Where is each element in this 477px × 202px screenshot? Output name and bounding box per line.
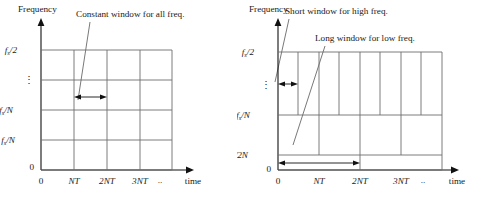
- svg-text:fs/N: fs/N: [1, 135, 16, 146]
- y-tick-fs-over-N: fs/N: [1, 135, 16, 146]
- y-tick-fs-over-2N: fs/2N: [237, 150, 249, 161]
- time-frequency-tiling-figure: Constant window for all freq. Frequency: [0, 0, 477, 202]
- middle-band-vlines: [319, 115, 401, 155]
- y-tick-zero: 0: [29, 162, 34, 172]
- annotation-long-window: Long window for low freq.: [315, 33, 415, 43]
- x-tick-2NT: 2NT: [352, 176, 369, 186]
- y-axis-label-frequency: Frequency: [249, 4, 288, 14]
- annotation-constant-window: Constant window for all freq.: [76, 9, 184, 19]
- x-tick-2NT: 2NT: [99, 176, 116, 186]
- short-window-leader-line: [275, 19, 289, 82]
- annotation-leader-line: [78, 22, 90, 100]
- svg-text:fs/2N: fs/2N: [237, 150, 249, 161]
- y-axis-label-frequency: Frequency: [18, 4, 57, 14]
- y-axis-arrowhead: [38, 18, 45, 26]
- x-tick-NT: NT: [312, 176, 325, 186]
- x-axis-arrowhead: [186, 167, 194, 174]
- top-band-vlines: [298, 52, 421, 115]
- y-tick-fs-over-2: fs/2: [242, 47, 255, 58]
- x-tick-ellipsis: ..: [158, 175, 163, 185]
- x-axis-label-time: time: [449, 176, 465, 186]
- svg-text:2fs/N: 2fs/N: [237, 110, 251, 121]
- x-tick-0: 0: [39, 176, 44, 186]
- x-tick-3NT: 3NT: [392, 176, 410, 186]
- long-window-width-arrow: [278, 160, 360, 165]
- annotation-short-window: Short window for high freq.: [285, 6, 388, 16]
- x-tick-ellipsis: ..: [421, 175, 426, 185]
- x-tick-NT: NT: [67, 176, 80, 186]
- x-tick-0: 0: [276, 176, 281, 186]
- y-tick-zero: 0: [266, 164, 271, 174]
- x-tick-3NT: 3NT: [131, 176, 149, 186]
- svg-text:fs/2: fs/2: [242, 47, 255, 58]
- x-axis-arrowhead: [451, 167, 459, 174]
- y-tick-vertical-dots: ⋮: [24, 75, 34, 85]
- svg-text:fs/2: fs/2: [5, 45, 18, 56]
- y-tick-2fs-over-N: 2fs/N: [237, 110, 251, 121]
- y-axis-arrowhead: [275, 18, 282, 26]
- panel-multiresolution-window: Short window for high freq. Long window …: [237, 0, 477, 202]
- short-window-width-arrow: [278, 81, 298, 86]
- y-tick-vertical-dots: ⋮: [261, 80, 271, 90]
- x-axis-label-time: time: [185, 176, 201, 186]
- window-width-arrow: [74, 94, 107, 99]
- panel-constant-window: Constant window for all freq. Frequency: [0, 0, 240, 202]
- y-tick-fs-over-2: fs/2: [5, 45, 18, 56]
- svg-text:2fs/N: 2fs/N: [0, 105, 14, 116]
- y-tick-2fs-over-N: 2fs/N: [0, 105, 14, 116]
